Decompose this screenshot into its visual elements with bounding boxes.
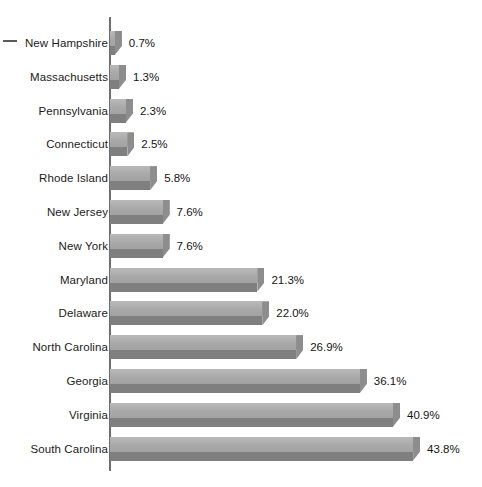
bar-value-label: 1.3%: [133, 62, 159, 92]
bar-row: Delaware22.0%: [0, 298, 482, 328]
bar-bottom-face: [110, 283, 257, 292]
bar-end-cap: [262, 301, 269, 325]
bar-end-cap: [150, 166, 157, 190]
bar-top-face: [110, 369, 360, 384]
bar-row: Connecticut2.5%: [0, 129, 482, 159]
bar-end-cap: [127, 132, 134, 156]
bar: [110, 99, 126, 123]
bar-end-cap: [163, 200, 170, 224]
bar: [110, 65, 119, 89]
bar-top-face: [110, 200, 163, 215]
bar-value-label: 0.7%: [129, 28, 155, 58]
bar-row: South Carolina43.8%: [0, 434, 482, 464]
bar-value-label: 43.8%: [427, 434, 460, 464]
bar-top-face: [110, 132, 127, 147]
bar: [110, 301, 262, 325]
bar-row: North Carolina26.9%: [0, 332, 482, 362]
category-label: Rhode Island: [39, 163, 108, 193]
bar: [110, 437, 413, 461]
bar-top-face: [110, 99, 126, 114]
bar-bottom-face: [110, 114, 126, 123]
bar-bottom-face: [110, 316, 262, 325]
bar-rows-container: New Hampshire0.7%Massachusetts1.3%Pennsy…: [0, 0, 482, 487]
bar: [110, 132, 127, 156]
bar-end-cap: [296, 335, 303, 359]
bar-value-label: 40.9%: [407, 400, 440, 430]
bar-bottom-face: [110, 418, 393, 427]
bar-top-face: [110, 268, 257, 283]
category-label: New Hampshire: [25, 28, 108, 58]
bar-end-cap: [126, 99, 133, 123]
category-label: Massachusetts: [30, 62, 108, 92]
bar-value-label: 21.3%: [271, 265, 304, 295]
bar-top-face: [110, 166, 150, 181]
bar: [110, 369, 360, 393]
category-label: Maryland: [60, 265, 108, 295]
bar: [110, 234, 163, 258]
bar-bottom-face: [110, 452, 413, 461]
bar-bottom-face: [110, 350, 296, 359]
category-label: Connecticut: [46, 129, 108, 159]
bar-end-cap: [393, 403, 400, 427]
bar: [110, 268, 257, 292]
bar-value-label: 22.0%: [276, 298, 309, 328]
bar-top-face: [110, 403, 393, 418]
bar-top-face: [110, 437, 413, 452]
bar-top-face: [110, 301, 262, 316]
bar-bottom-face: [110, 249, 163, 258]
bar-end-cap: [413, 437, 420, 461]
bar-row: New Jersey7.6%: [0, 197, 482, 227]
bar-value-label: 36.1%: [374, 366, 407, 396]
bar-end-cap: [115, 31, 122, 55]
bar-bottom-face: [110, 80, 119, 89]
bar-bottom-face: [110, 181, 150, 190]
bar-row: Massachusetts1.3%: [0, 62, 482, 92]
bar-value-label: 26.9%: [310, 332, 343, 362]
bar-value-label: 5.8%: [164, 163, 190, 193]
bar-top-face: [110, 31, 115, 46]
bar-value-label: 2.5%: [141, 129, 167, 159]
bar-bottom-face: [110, 147, 127, 156]
bar-end-cap: [119, 65, 126, 89]
bar-row: New York7.6%: [0, 231, 482, 261]
bar: [110, 166, 150, 190]
category-label: Delaware: [59, 298, 108, 328]
bar: [110, 200, 163, 224]
bar-value-label: 7.6%: [177, 197, 203, 227]
category-label: South Carolina: [31, 434, 108, 464]
bar-value-label: 2.3%: [140, 96, 166, 126]
bar-end-cap: [360, 369, 367, 393]
bar-row: New Hampshire0.7%: [0, 28, 482, 58]
bar-bottom-face: [110, 215, 163, 224]
category-label: Virginia: [69, 400, 108, 430]
bar-row: Virginia40.9%: [0, 400, 482, 430]
bar: [110, 31, 115, 55]
bar-top-face: [110, 335, 296, 350]
bar-end-cap: [257, 268, 264, 292]
bar-row: Maryland21.3%: [0, 265, 482, 295]
bar-top-face: [110, 65, 119, 80]
bar-row: Georgia36.1%: [0, 366, 482, 396]
bar: [110, 335, 296, 359]
bar-row: Pennsylvania2.3%: [0, 96, 482, 126]
bar-bottom-face: [110, 46, 115, 55]
category-label: Georgia: [66, 366, 108, 396]
bar-chart: New Hampshire0.7%Massachusetts1.3%Pennsy…: [0, 0, 482, 487]
category-label: New York: [59, 231, 108, 261]
bar-bottom-face: [110, 384, 360, 393]
category-label: North Carolina: [32, 332, 108, 362]
category-label: Pennsylvania: [38, 96, 108, 126]
bar: [110, 403, 393, 427]
bar-top-face: [110, 234, 163, 249]
category-label: New Jersey: [47, 197, 108, 227]
bar-value-label: 7.6%: [177, 231, 203, 261]
bar-row: Rhode Island5.8%: [0, 163, 482, 193]
bar-end-cap: [163, 234, 170, 258]
